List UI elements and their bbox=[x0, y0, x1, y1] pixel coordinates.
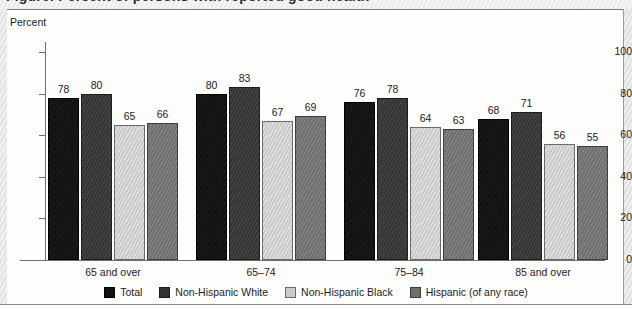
bar bbox=[114, 125, 145, 260]
x-axis-group-label: 75–84 bbox=[394, 266, 423, 278]
bar-value-label: 66 bbox=[157, 108, 169, 120]
bar bbox=[196, 94, 227, 260]
y-axis-tick bbox=[39, 135, 45, 136]
bar bbox=[478, 119, 509, 260]
bar bbox=[511, 112, 542, 260]
x-axis-group-label: 85 and over bbox=[515, 266, 570, 278]
bar bbox=[344, 102, 375, 260]
bar-value-label: 78 bbox=[58, 83, 70, 95]
bar-value-label: 63 bbox=[453, 114, 465, 126]
legend-label: Hispanic (of any race) bbox=[426, 286, 528, 298]
bar-value-label: 67 bbox=[272, 106, 284, 118]
bar-value-label: 71 bbox=[521, 97, 533, 109]
bar-value-label: 78 bbox=[387, 83, 399, 95]
x-axis-group-label: 65 and over bbox=[85, 266, 140, 278]
legend-item: Hispanic (of any race) bbox=[410, 286, 528, 298]
legend-swatch-icon bbox=[159, 287, 170, 298]
bar bbox=[48, 98, 79, 260]
legend-label: Total bbox=[120, 286, 142, 298]
y-axis-tick-label: 60 bbox=[598, 128, 632, 140]
legend-swatch-icon bbox=[104, 287, 115, 298]
legend-item: Non-Hispanic White bbox=[159, 286, 268, 298]
y-axis-tick bbox=[39, 260, 45, 261]
bar-value-label: 65 bbox=[124, 110, 136, 122]
bar bbox=[262, 121, 293, 260]
legend-item: Total bbox=[104, 286, 142, 298]
bar-value-label: 69 bbox=[305, 101, 317, 113]
y-axis-tick bbox=[39, 218, 45, 219]
bar-value-label: 83 bbox=[239, 72, 251, 84]
legend-swatch-icon bbox=[285, 287, 296, 298]
bar bbox=[229, 87, 260, 260]
scanned-page: Figure. Percent of persons with reported… bbox=[0, 0, 632, 309]
bar bbox=[377, 98, 408, 260]
bar-value-label: 80 bbox=[91, 79, 103, 91]
bar-value-label: 80 bbox=[206, 79, 218, 91]
legend-swatch-icon bbox=[410, 287, 421, 298]
y-axis-tick-label: 100 bbox=[598, 45, 632, 57]
y-axis-tick bbox=[39, 94, 45, 95]
plot-area: 0204060801007880656665 and over808367696… bbox=[0, 10, 632, 305]
bar bbox=[295, 116, 326, 260]
bar-value-label: 56 bbox=[554, 129, 566, 141]
legend-label: Non-Hispanic White bbox=[175, 286, 268, 298]
y-axis-tick bbox=[39, 52, 45, 53]
legend-label: Non-Hispanic Black bbox=[301, 286, 393, 298]
legend-item: Non-Hispanic Black bbox=[285, 286, 393, 298]
y-axis-line bbox=[45, 42, 46, 260]
clipped-figure-title: Figure. Percent of persons with reported… bbox=[6, 0, 370, 4]
chart-legend: TotalNon-Hispanic WhiteNon-Hispanic Blac… bbox=[0, 286, 632, 298]
y-axis-tick bbox=[39, 177, 45, 178]
bar-value-label: 55 bbox=[587, 131, 599, 143]
bar-value-label: 68 bbox=[488, 104, 500, 116]
x-axis-line bbox=[20, 260, 605, 261]
bar bbox=[147, 123, 178, 260]
bar bbox=[81, 94, 112, 260]
bar bbox=[410, 127, 441, 260]
bar bbox=[577, 146, 608, 260]
x-axis-group-label: 65–74 bbox=[246, 266, 275, 278]
y-axis-tick-label: 80 bbox=[598, 87, 632, 99]
bar-value-label: 64 bbox=[420, 112, 432, 124]
bar-value-label: 76 bbox=[354, 87, 366, 99]
bar bbox=[443, 129, 474, 260]
bar-chart: Percent 0204060801007880656665 and over8… bbox=[0, 10, 632, 305]
bar bbox=[544, 144, 575, 260]
